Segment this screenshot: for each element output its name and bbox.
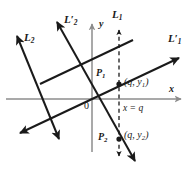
label-L2: L2 [24, 32, 34, 43]
label-L2-prime: L′2 [64, 14, 78, 25]
label-P2: P2 [98, 132, 108, 142]
label-y-axis: y [99, 19, 103, 29]
label-P2-coordinates: (q, y2) [124, 130, 149, 140]
point-P1-dot [116, 81, 121, 86]
label-P1: P1 [96, 68, 106, 78]
label-x-equals-q: x = q [123, 104, 143, 114]
point-P2-dot [116, 136, 121, 141]
label-L1: L1 [112, 9, 122, 20]
label-P1-coordinates: (q, y1) [124, 77, 149, 87]
label-x-axis: x [169, 84, 174, 94]
line-L1-L2prime [57, 22, 135, 161]
diagram-svg [0, 0, 193, 170]
label-origin: 0 [84, 101, 89, 111]
figure-canvas: L2 L′2 L1 L′1 y x 0 P1 (q, y1) P2 (q, y2… [0, 0, 193, 170]
label-L1-prime: L′1 [168, 33, 182, 44]
